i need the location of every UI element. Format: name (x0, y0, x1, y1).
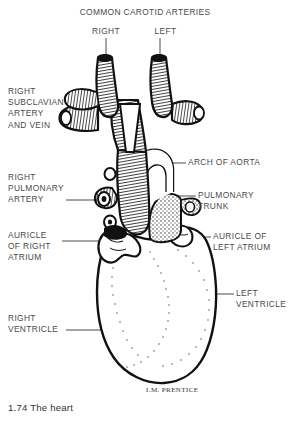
label-left-ventricle: LEFT VENTRICLE (236, 288, 290, 310)
label-common-carotid-arteries: COMMON CAROTID ARTERIES (0, 7, 290, 18)
label-arch-of-aorta: ARCH OF AORTA (188, 157, 288, 168)
figure-page: I.M. PRENTICE COMMON CAROTID ARTERIES RI… (0, 0, 290, 424)
label-right-pulmonary-artery: RIGHT PULMONARY ARTERY (8, 172, 128, 206)
label-carotid-right: RIGHT (76, 26, 136, 37)
label-right-subclavian-artery-and-vein: RIGHT SUBCLAVIAN ARTERY AND VEIN (8, 86, 128, 131)
label-carotid-left: LEFT (138, 26, 193, 37)
label-pulmonary-trunk: PULMONARY TRUNK (198, 190, 290, 212)
label-auricle-of-right-atrium: AURICLE OF RIGHT ATRIUM (8, 230, 128, 264)
label-right-ventricle: RIGHT VENTRICLE (8, 313, 128, 335)
artist-signature: I.M. PRENTICE (146, 386, 198, 394)
figure-caption: 1.74 The heart (8, 402, 73, 413)
label-auricle-of-left-atrium: AURICLE OF LEFT ATRIUM (213, 231, 290, 253)
